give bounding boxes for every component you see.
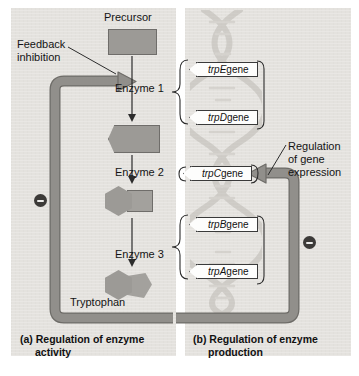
feedback-inhibition-label-line1: Feedback [17, 38, 65, 50]
gene-box-trpd: trpD gene [196, 110, 258, 125]
gene-trpd-suffix: gene [227, 111, 249, 124]
gene-box-trpe: trpE gene [196, 62, 258, 77]
gene-trpe-italic: trpE [208, 63, 226, 76]
minus-sign-icon-panel-b [303, 236, 316, 249]
gene-box-trpc: trpC gene [190, 166, 252, 181]
caption-b-line2: production [193, 346, 343, 359]
gene-box-trpb: trpB gene [196, 217, 258, 232]
gene-trpb-italic: trpB [208, 218, 226, 231]
intermediate-1-molecule-shape [108, 125, 160, 153]
minus-sign-icon-panel-a [34, 194, 47, 207]
feedback-inhibition-label: Feedback inhibition [17, 38, 81, 64]
caption-a-line2: activity [20, 346, 170, 359]
tryptophan-label: Tryptophan [70, 296, 125, 309]
regulation-label-line1: Regulation [288, 140, 341, 152]
regulation-label-line2: of gene [288, 153, 325, 165]
regulation-of-gene-expression-label: Regulation of gene expression [288, 140, 356, 179]
enzyme-1-label: Enzyme 1 [115, 82, 164, 95]
gene-trpa-suffix: gene [226, 265, 248, 278]
enzyme-2-label: Enzyme 2 [115, 166, 164, 179]
panel-b-background [185, 8, 351, 356]
figure-regulation-of-tryptophan-synthesis: Precursor Enzyme 1 Enzyme 2 Enzyme 3 Try… [0, 0, 359, 376]
gene-trpc-suffix: gene [221, 167, 243, 180]
gene-trpc-italic: trpC [202, 167, 221, 180]
regulation-label-line3: expression [288, 166, 341, 178]
precursor-label: Precursor [104, 11, 152, 24]
caption-panel-b: (b) Regulation of enzyme production [193, 333, 343, 358]
caption-a-line1: (a) Regulation of enzyme [20, 333, 144, 345]
gene-box-trpa: trpA gene [196, 264, 258, 279]
gene-trpb-suffix: gene [226, 218, 248, 231]
caption-panel-a: (a) Regulation of enzyme activity [20, 333, 170, 358]
precursor-molecule-shape [108, 29, 157, 55]
enzyme-3-label: Enzyme 3 [115, 248, 164, 261]
gene-trpa-italic: trpA [208, 265, 226, 278]
feedback-inhibition-label-line2: inhibition [17, 51, 60, 63]
caption-b-line1: (b) Regulation of enzyme [193, 333, 318, 345]
panel-b-texture [185, 8, 351, 356]
gene-trpe-suffix: gene [226, 63, 248, 76]
gene-trpd-italic: trpD [208, 111, 227, 124]
